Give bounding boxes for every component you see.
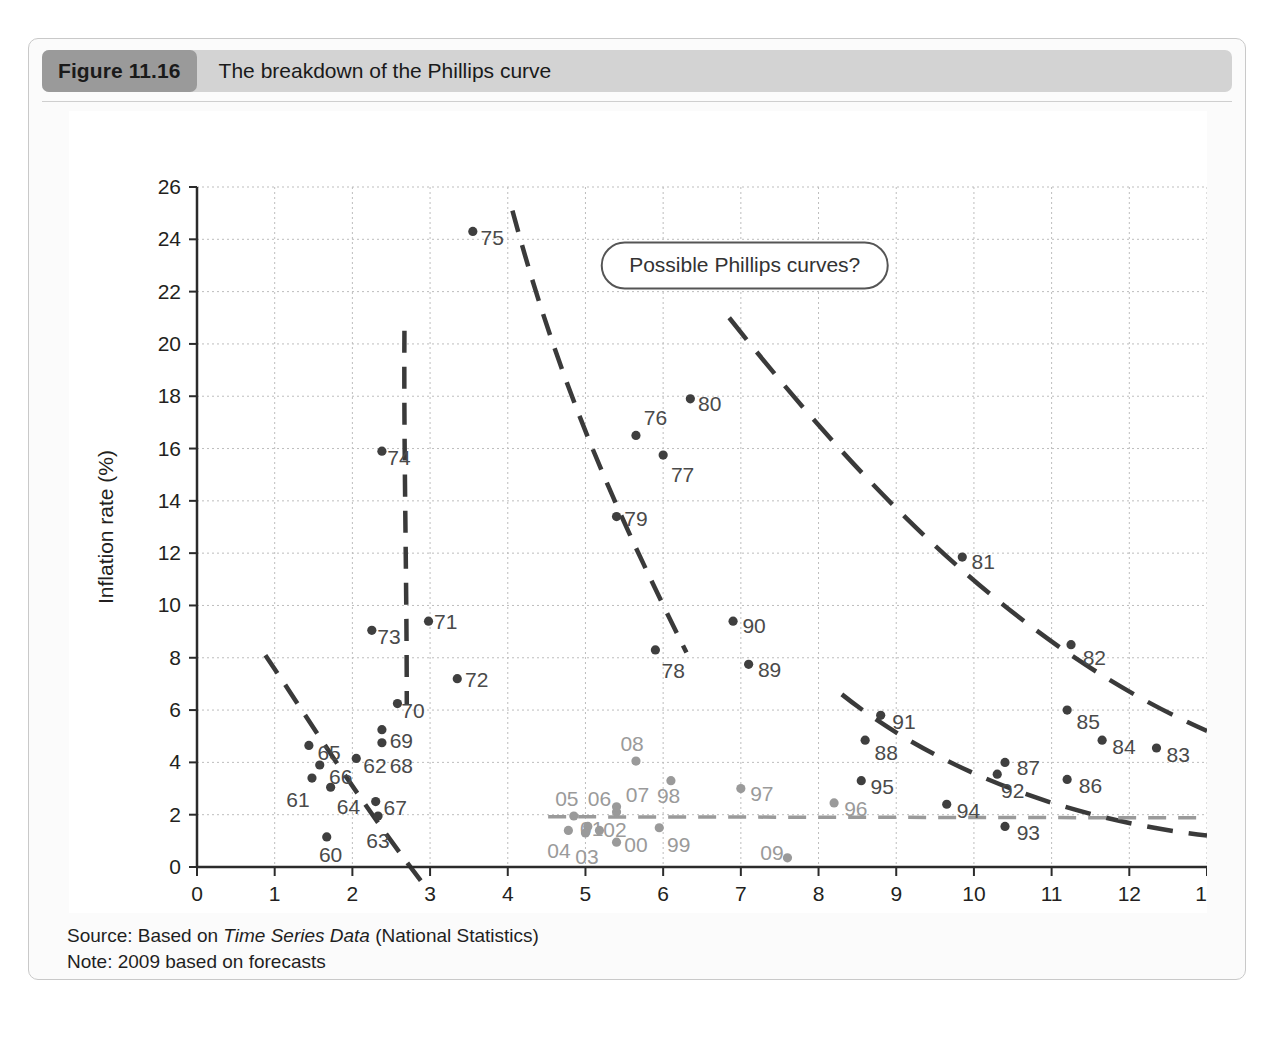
point-label-70: 70: [401, 699, 424, 722]
point-label-81: 81: [972, 550, 995, 573]
y-tick-label: 20: [158, 332, 181, 355]
data-point-05: [569, 811, 578, 820]
data-point-96: [829, 798, 838, 807]
y-tick-label: 6: [169, 698, 181, 721]
data-point-75: [468, 227, 477, 236]
x-tick-label: 3: [424, 882, 436, 905]
point-label-63: 63: [366, 829, 389, 852]
point-label-66: 66: [329, 765, 352, 788]
x-tick-label: 4: [502, 882, 514, 905]
data-point-82: [1066, 640, 1075, 649]
point-label-86: 86: [1079, 774, 1102, 797]
point-label-97: 97: [750, 782, 773, 805]
y-tick-label: 22: [158, 280, 181, 303]
point-label-75: 75: [481, 226, 504, 249]
data-point-73: [367, 626, 376, 635]
data-point-81: [958, 552, 967, 561]
data-point-95: [857, 776, 866, 785]
point-label-80: 80: [698, 392, 721, 415]
point-label-07: 07: [626, 783, 649, 806]
phillips-curve-1980s-outer: [729, 318, 1207, 731]
point-label-78: 78: [662, 659, 685, 682]
y-tick-label: 12: [158, 541, 181, 564]
point-label-04: 04: [547, 839, 571, 862]
point-label-64: 64: [337, 795, 361, 818]
point-label-96: 96: [844, 797, 867, 820]
point-label-83: 83: [1167, 743, 1190, 766]
y-axis-title: Inflation rate (%): [94, 450, 117, 604]
point-label-94: 94: [957, 799, 981, 822]
point-label-95: 95: [871, 775, 894, 798]
data-point-77: [659, 450, 668, 459]
data-point-84: [1098, 736, 1107, 745]
point-label-05: 05: [555, 787, 578, 810]
data-point-67: [371, 797, 380, 806]
source-prefix: Source: Based on: [67, 925, 223, 946]
point-label-93: 93: [1017, 821, 1040, 844]
plot-card: 0246810121416182022242601234567891011121…: [69, 111, 1207, 913]
point-label-08: 08: [620, 732, 643, 755]
point-label-02: 02: [603, 818, 626, 841]
phillips-curve-vertical-1970s: [404, 331, 406, 705]
data-point-94: [942, 800, 951, 809]
data-point-88: [861, 736, 870, 745]
x-tick-label: 8: [813, 882, 825, 905]
phillips-curve-scatter-chart: 0246810121416182022242601234567891011121…: [69, 111, 1207, 913]
x-tick-label: 13: [1195, 882, 1207, 905]
callout-label: Possible Phillips curves?: [629, 253, 860, 276]
point-label-99: 99: [667, 833, 690, 856]
point-label-60: 60: [319, 843, 342, 866]
point-label-88: 88: [874, 741, 897, 764]
x-tick-label: 6: [657, 882, 669, 905]
source-note-block: Source: Based on Time Series Data (Natio…: [67, 923, 539, 975]
source-line: Source: Based on Time Series Data (Natio…: [67, 923, 539, 949]
x-tick-label: 1: [269, 882, 281, 905]
x-tick-label: 7: [735, 882, 747, 905]
data-point-99: [655, 823, 664, 832]
y-tick-label: 18: [158, 384, 181, 407]
data-point-62: [352, 754, 361, 763]
source-suffix: (National Statistics): [370, 925, 539, 946]
y-tick-label: 2: [169, 803, 181, 826]
y-tick-label: 4: [169, 750, 181, 773]
figure-frame: Figure 11.16 The breakdown of the Philli…: [28, 38, 1246, 980]
data-point-79: [612, 512, 621, 521]
figure-title: The breakdown of the Phillips curve: [197, 59, 552, 83]
axis-titles: Unemployment rate (%)Inflation rate (%): [94, 450, 813, 913]
x-tick-label: 12: [1118, 882, 1141, 905]
point-label-67: 67: [383, 796, 406, 819]
data-point-07: [612, 802, 621, 811]
data-point-04: [564, 826, 573, 835]
point-label-62: 62: [363, 754, 386, 777]
data-point-91: [876, 711, 885, 720]
figure-number-badge: Figure 11.16: [42, 50, 197, 92]
point-label-92: 92: [1001, 779, 1024, 802]
point-label-87: 87: [1017, 756, 1040, 779]
data-point-74: [377, 447, 386, 456]
callout-possible-phillips-curves: Possible Phillips curves?: [602, 242, 888, 288]
y-tick-label: 0: [169, 855, 181, 878]
y-tick-label: 8: [169, 646, 181, 669]
point-label-74: 74: [387, 446, 411, 469]
y-tick-label: 24: [158, 227, 182, 250]
point-label-84: 84: [1112, 735, 1136, 758]
data-point-72: [453, 674, 462, 683]
point-label-82: 82: [1083, 646, 1106, 669]
point-label-73: 73: [377, 625, 400, 648]
point-label-77: 77: [671, 463, 694, 486]
y-tick-label: 14: [158, 489, 182, 512]
point-label-69: 69: [390, 729, 413, 752]
data-point-66: [315, 760, 324, 769]
x-tick-label: 5: [580, 882, 592, 905]
data-point-92: [993, 770, 1002, 779]
data-point-85: [1063, 705, 1072, 714]
data-point-89: [744, 660, 753, 669]
point-label-89: 89: [758, 658, 781, 681]
point-label-76: 76: [644, 406, 667, 429]
point-label-06: 06: [588, 787, 611, 810]
figure-caption-bar: Figure 11.16 The breakdown of the Philli…: [42, 50, 1232, 92]
data-points: 6061626364656667686970717273747576777879…: [286, 226, 1190, 868]
phillips-curve-flat-2000s: [548, 817, 1199, 818]
data-point-78: [651, 645, 660, 654]
y-tick-label: 26: [158, 175, 181, 198]
